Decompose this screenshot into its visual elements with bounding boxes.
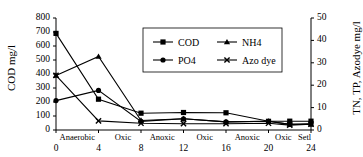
data-point-marker-square bbox=[96, 97, 101, 102]
x-axis-tick-label: 20 bbox=[256, 144, 282, 154]
x-axis-phase-label: Anaerobic bbox=[52, 133, 102, 142]
x-axis-phase-label: Setl bbox=[280, 133, 330, 142]
x-axis-tick-label: 16 bbox=[213, 144, 239, 154]
y-axis-right-tick-label: 20 bbox=[317, 80, 343, 90]
y-axis-right-tick-label: 30 bbox=[317, 58, 343, 68]
x-axis-tick-label: 12 bbox=[171, 144, 197, 154]
y-axis-right-tick-label: 40 bbox=[317, 35, 343, 45]
legend-label: COD bbox=[178, 37, 199, 48]
y-axis-left-tick-label: 600 bbox=[22, 41, 50, 51]
y-axis-left-tick-label: 700 bbox=[22, 27, 50, 37]
x-axis-tick-label: 4 bbox=[86, 144, 112, 154]
x-axis-tick-label: 24 bbox=[298, 144, 324, 154]
data-point-marker-square bbox=[223, 110, 228, 115]
data-point-marker-triangle bbox=[95, 53, 101, 58]
data-point-marker-circle bbox=[181, 116, 186, 121]
y-axis-left-tick-label: 500 bbox=[22, 55, 50, 65]
data-point-marker-square bbox=[181, 110, 186, 115]
data-point-marker-square bbox=[160, 39, 165, 44]
legend-label: Azo dye bbox=[242, 55, 276, 66]
data-point-marker-circle bbox=[96, 88, 101, 93]
y-axis-left-tick-label: 400 bbox=[22, 69, 50, 79]
x-axis-tick-label: 8 bbox=[128, 144, 154, 154]
y-axis-left-tick-label: 200 bbox=[22, 97, 50, 107]
data-point-marker-square bbox=[138, 111, 143, 116]
data-point-marker-square bbox=[53, 31, 58, 36]
y-axis-left-tick-label: 800 bbox=[22, 13, 50, 23]
legend-label: PO4 bbox=[178, 55, 196, 66]
data-point-marker-circle bbox=[53, 98, 58, 103]
legend: CODNH4PO4Azo dye bbox=[143, 28, 282, 72]
data-point-marker-circle bbox=[160, 57, 165, 62]
y-axis-right-tick-label: 50 bbox=[317, 13, 343, 23]
legend-label: NH4 bbox=[242, 37, 261, 48]
chart-figure: COD mg/l TN, TP, Azodye mg/l CODNH4PO4Az… bbox=[0, 0, 363, 157]
x-axis-tick-label: 0 bbox=[43, 144, 69, 154]
y-axis-left-tick-label: 100 bbox=[22, 111, 50, 121]
y-axis-right-tick-label: 10 bbox=[317, 103, 343, 113]
y-axis-left-tick-label: 0 bbox=[22, 125, 50, 135]
y-axis-left-tick-label: 300 bbox=[22, 83, 50, 93]
